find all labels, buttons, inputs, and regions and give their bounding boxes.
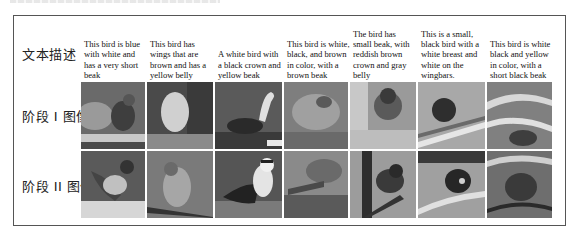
description-col-2: This bird has wings that are brown and h… [147, 18, 213, 80]
stage2-bird-image-7 [487, 151, 552, 218]
stage1-bird-image-4 [284, 82, 348, 149]
description-col-7: This bird is white black and yellow in c… [487, 18, 553, 80]
description-col-1: This bird is blue with white and has a v… [81, 18, 147, 80]
description-col-5: The bird has small beak, with reddish br… [350, 18, 416, 80]
stage1-bird-image-6 [418, 82, 485, 149]
stage1-bird-image-2 [147, 82, 213, 149]
description-col-3: A white bird with a black crown and yell… [215, 18, 281, 80]
description-col-4: This bird is white, black, and brown in … [284, 18, 350, 80]
description-col-6: This is a small, black bird with a white… [418, 18, 484, 80]
stage2-bird-image-3 [215, 151, 282, 218]
row-label-text-description: 文本描述 [22, 44, 82, 63]
stage1-bird-image-1 [81, 82, 145, 149]
stage1-bird-image-5 [350, 82, 416, 149]
row-label-stage1-images: 阶段 I 图像 [22, 106, 82, 125]
stage2-bird-image-6 [418, 151, 485, 218]
row-label-stage2-images: 阶段 II 图像 [22, 176, 82, 195]
stage2-bird-image-5 [350, 151, 416, 218]
stage1-bird-image-3 [215, 82, 282, 149]
clipped-caption-text [10, 0, 220, 3]
stage1-bird-image-7 [487, 82, 552, 149]
stage2-bird-image-4 [284, 151, 348, 218]
stage2-bird-image-2 [147, 151, 213, 218]
stage2-bird-image-1 [81, 151, 145, 218]
